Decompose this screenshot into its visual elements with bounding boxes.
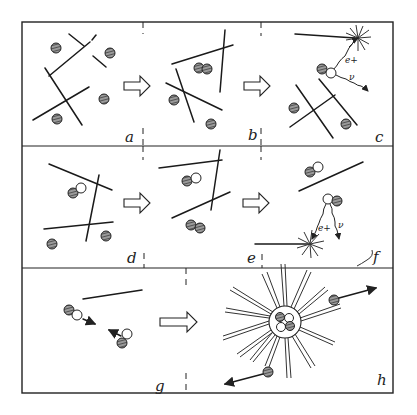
panel-a: a bbox=[33, 34, 150, 146]
process-arrow-icon bbox=[244, 76, 270, 96]
figure-frame bbox=[22, 22, 393, 393]
panel-h: h bbox=[223, 264, 387, 389]
panel-label-e: e bbox=[247, 249, 256, 267]
panel-label-g: g bbox=[155, 377, 165, 395]
panel-f: e+ ν f bbox=[255, 162, 381, 266]
panel-d: d bbox=[44, 164, 150, 267]
diagram-canvas: a b e+ ν c bbox=[0, 0, 417, 415]
panel-label-f: f bbox=[372, 248, 381, 266]
panel-label-a: a bbox=[125, 128, 134, 146]
panel-label-b: b bbox=[248, 126, 258, 144]
panel-c: e+ ν c bbox=[289, 25, 384, 146]
fusion-burst-icon bbox=[223, 264, 341, 378]
panel-g: g bbox=[64, 290, 197, 395]
process-arrow-icon bbox=[243, 193, 269, 213]
process-arrow-icon bbox=[160, 312, 197, 332]
positron-label: e+ bbox=[318, 223, 331, 233]
process-arrow-icon bbox=[124, 76, 150, 96]
panel-e: e bbox=[159, 150, 269, 267]
neutrino-label: ν bbox=[338, 220, 344, 230]
process-arrow-icon bbox=[124, 193, 150, 213]
panel-label-c: c bbox=[375, 128, 384, 146]
panel-label-h: h bbox=[377, 371, 387, 389]
panel-b: b bbox=[166, 30, 270, 144]
positron-label: e+ bbox=[345, 55, 358, 65]
neutrino-label: ν bbox=[349, 72, 355, 82]
panel-label-d: d bbox=[127, 249, 137, 267]
